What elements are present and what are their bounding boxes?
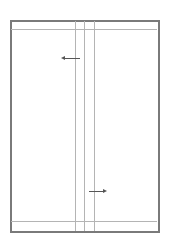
arrow-left-shaft — [64, 58, 80, 59]
vertical-line-3 — [94, 21, 95, 231]
diagram-frame — [10, 20, 160, 233]
arrow-right-shaft — [89, 191, 103, 192]
arrow-left-icon — [61, 56, 65, 60]
arrow-right-icon — [103, 189, 107, 193]
vertical-line-2 — [84, 21, 85, 231]
vertical-line-1 — [75, 21, 76, 231]
